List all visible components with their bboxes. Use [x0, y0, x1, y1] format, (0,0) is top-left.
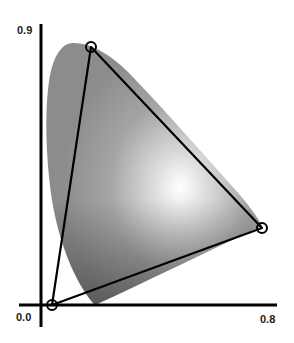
origin-label: 0.0	[16, 311, 31, 323]
x-axis-max-label: 0.8	[260, 313, 275, 325]
spectral-locus	[46, 43, 262, 305]
chromaticity-diagram	[0, 0, 294, 343]
y-axis-max-label: 0.9	[17, 24, 32, 36]
